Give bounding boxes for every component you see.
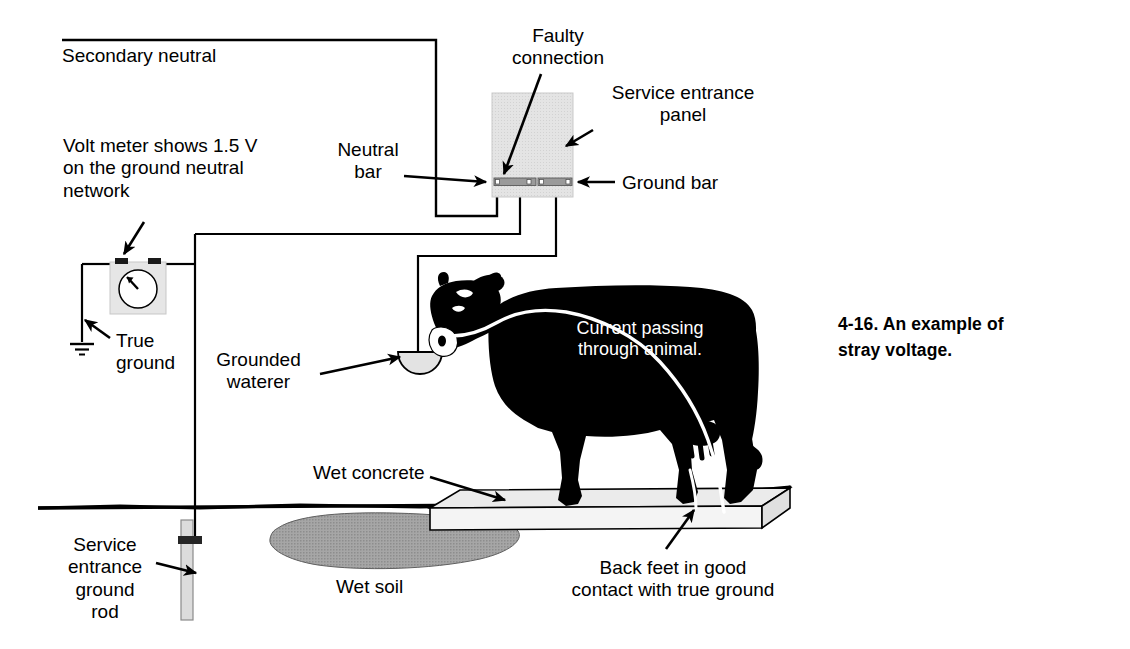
label-true-ground: True ground	[116, 330, 175, 375]
stray-voltage-figure: Secondary neutral Faulty connection Serv…	[0, 0, 1130, 649]
label-service-entrance-ground-rod: Service entrance ground rod	[55, 534, 155, 624]
ground-rod-clamp	[178, 536, 202, 544]
leader-true-ground	[85, 320, 110, 338]
label-faulty-connection: Faulty connection	[498, 25, 618, 70]
leader-grounded-waterer	[320, 357, 400, 374]
label-secondary-neutral: Secondary neutral	[62, 45, 216, 67]
label-wet-concrete: Wet concrete	[313, 462, 425, 484]
grounded-waterer	[398, 352, 442, 374]
leader-volt-meter	[124, 222, 144, 254]
service-entrance-panel	[492, 93, 573, 197]
volt-meter-terminal-right	[148, 258, 161, 264]
label-back-feet: Back feet in good contact with true grou…	[538, 557, 808, 602]
figure-caption: 4-16. An example of stray voltage.	[838, 311, 1068, 364]
label-wet-soil: Wet soil	[336, 576, 403, 598]
label-neutral-bar: Neutral bar	[328, 139, 408, 184]
label-current-through-animal: Current passing through animal.	[540, 318, 740, 359]
true-ground-symbol	[70, 344, 94, 355]
volt-meter-terminal-left	[115, 258, 128, 264]
leader-neutral-bar	[404, 176, 486, 182]
label-volt-meter: Volt meter shows 1.5 V on the ground neu…	[63, 135, 257, 202]
label-grounded-waterer: Grounded waterer	[196, 349, 321, 394]
cow-silhouette	[429, 272, 763, 506]
volt-meter	[110, 258, 166, 314]
label-service-entrance-panel: Service entrance panel	[598, 82, 768, 127]
label-ground-bar: Ground bar	[622, 172, 718, 194]
